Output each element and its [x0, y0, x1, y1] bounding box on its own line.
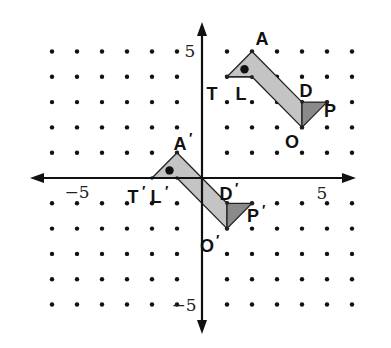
axes — [30, 22, 356, 334]
grid-dot — [50, 125, 54, 129]
prime-mark: ′ — [165, 183, 169, 199]
vertex-dot — [250, 202, 254, 206]
grid-dot — [100, 151, 104, 155]
grid-dot — [150, 277, 154, 281]
grid-dot — [75, 226, 79, 230]
grid-dot — [325, 252, 329, 256]
vertex-dot — [225, 227, 229, 231]
grid-dot — [300, 49, 304, 53]
grid-dot — [300, 277, 304, 281]
prime-mark: ′ — [235, 180, 239, 196]
vertex-label: T — [207, 84, 218, 104]
grid-dot — [275, 151, 279, 155]
grid-dot — [350, 277, 354, 281]
grid-dot — [250, 277, 254, 281]
grid-dot — [300, 75, 304, 79]
vertex-label: T — [128, 187, 139, 207]
grid-dot — [75, 100, 79, 104]
arrow-down-icon — [197, 320, 207, 334]
grid-dot — [50, 100, 54, 104]
grid-dot — [100, 75, 104, 79]
vertex-dot — [250, 75, 254, 79]
grid-dot — [225, 49, 229, 53]
grid-dot — [350, 201, 354, 205]
grid-dot — [150, 226, 154, 230]
grid-dot — [350, 75, 354, 79]
grid-dot — [125, 252, 129, 256]
grid-dot — [175, 100, 179, 104]
grid-dot — [50, 49, 54, 53]
grid-dot — [150, 75, 154, 79]
grid-dot — [125, 125, 129, 129]
grid-dot — [350, 100, 354, 104]
grid-dot — [125, 302, 129, 306]
vertex-dot — [250, 50, 254, 54]
grid-dot — [350, 302, 354, 306]
grid-dot — [325, 49, 329, 53]
grid-dot — [300, 201, 304, 205]
vertex-label: O — [285, 132, 299, 152]
vertex-label: D — [220, 184, 233, 204]
grid-dot — [175, 75, 179, 79]
grid-dot — [300, 302, 304, 306]
grid-dot — [125, 100, 129, 104]
eye-dot — [240, 65, 248, 73]
grid-dot — [125, 226, 129, 230]
tick-label-x: −5 — [64, 182, 89, 202]
grid-dot — [150, 252, 154, 256]
grid-dot — [50, 226, 54, 230]
grid-dot — [50, 302, 54, 306]
grid-dot — [125, 49, 129, 53]
grid-dot — [175, 201, 179, 205]
grid-dot — [150, 302, 154, 306]
grid-dot — [175, 277, 179, 281]
body-shape — [152, 153, 227, 229]
grid-dot — [75, 277, 79, 281]
grid-dot — [125, 151, 129, 155]
grid-dot — [125, 75, 129, 79]
grid-dot — [100, 226, 104, 230]
grid-dot — [75, 49, 79, 53]
grid-dot — [325, 75, 329, 79]
vertex-label: A — [174, 134, 187, 154]
grid-dot — [250, 100, 254, 104]
vertex-dot — [300, 126, 304, 130]
grid-dot — [100, 125, 104, 129]
grid-dot — [100, 252, 104, 256]
vertex-label: O — [200, 236, 214, 256]
grid-dot — [150, 125, 154, 129]
grid-dot — [350, 49, 354, 53]
grid-dot — [50, 277, 54, 281]
prime-mark: ′ — [142, 183, 146, 199]
grid-dot — [50, 75, 54, 79]
grid-dot — [275, 125, 279, 129]
grid-dot — [100, 277, 104, 281]
grid-dot — [325, 302, 329, 306]
vertex-label: L — [236, 84, 247, 104]
grid-dot — [75, 151, 79, 155]
grid-dot — [225, 125, 229, 129]
grid-dot — [75, 75, 79, 79]
tick-label-y: 5 — [185, 41, 196, 61]
grid-dot — [175, 226, 179, 230]
grid-dot — [275, 226, 279, 230]
grid-dot — [250, 302, 254, 306]
arrow-up-icon — [197, 22, 207, 36]
arrow-left-icon — [30, 173, 44, 183]
grid-dot — [175, 125, 179, 129]
grid-dot — [275, 277, 279, 281]
vertex-label: P — [324, 101, 336, 121]
grid-dot — [275, 201, 279, 205]
grid-dot — [250, 151, 254, 155]
grid-dot — [50, 252, 54, 256]
vertex-label: L — [151, 187, 162, 207]
grid-dot — [150, 151, 154, 155]
grid-dot — [150, 49, 154, 53]
grid-dot — [250, 226, 254, 230]
grid-dot — [275, 302, 279, 306]
grid-dot — [225, 100, 229, 104]
grid-dot — [325, 226, 329, 230]
grid-dot — [150, 100, 154, 104]
grid-dot — [225, 252, 229, 256]
grid-dot — [325, 151, 329, 155]
